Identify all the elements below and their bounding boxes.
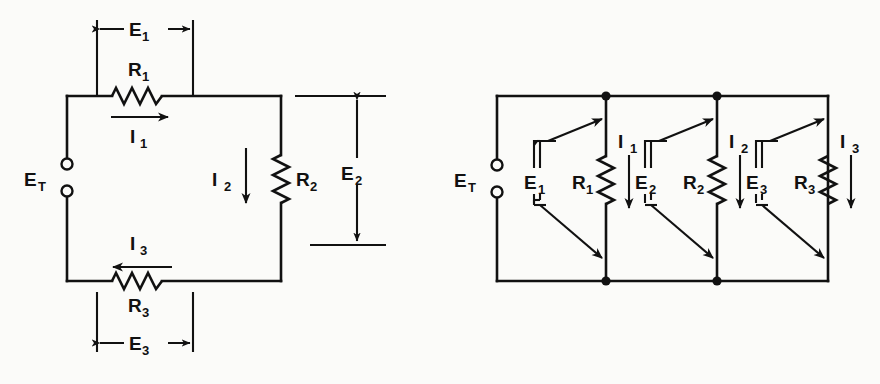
resistor-R3-subscript: 3 [808, 182, 815, 197]
dimension-E1: E 1 [97, 17, 193, 96]
current-I1-label: I [618, 131, 623, 152]
current-I2-label: I [212, 169, 217, 190]
diagram-canvas: E 1 R 1 I 1 E T [0, 0, 880, 384]
node-dot-bottom [601, 276, 610, 285]
current-I1-subscript: 1 [630, 141, 637, 156]
source-ET-label: E [24, 169, 37, 190]
terminal-top [62, 159, 73, 170]
series-right-branch: R 2 [273, 96, 317, 281]
circuit-diagram-figure: E 1 R 1 I 1 E T [0, 0, 880, 384]
series-circuit: E 1 R 1 I 1 E T [24, 17, 386, 358]
current-I3-label: I [840, 131, 845, 152]
current-I2: I 2 [212, 148, 246, 203]
resistor-R1-label: R [128, 59, 142, 80]
current-I1-subscript: 1 [140, 136, 147, 151]
parallel-branch-2: E 2 R 2 I 2 [633, 91, 748, 285]
resistor-R1-subscript: 1 [586, 182, 593, 197]
parallel-branch-3: E 3 R 3 I 3 [744, 119, 859, 258]
resistor-R3-subscript: 3 [142, 305, 149, 320]
current-I3-subscript: 3 [140, 243, 147, 258]
voltage-E1-subscript: 1 [538, 182, 545, 197]
voltage-E3-subscript: 3 [760, 182, 767, 197]
current-I1: I 1 [111, 117, 168, 151]
resistor-R1-label: R [572, 172, 586, 193]
current-I2-label: I [729, 131, 734, 152]
current-I1-label: I [130, 126, 135, 147]
resistor-R2-label: R [296, 169, 310, 190]
voltage-E1-label: E [524, 172, 537, 193]
series-source-ET: E T [24, 96, 73, 281]
dimension-E3-subscript: 3 [142, 343, 149, 358]
terminal-bottom [492, 187, 503, 198]
node-dot-top [712, 91, 721, 100]
parallel-source-ET: E T [454, 96, 503, 281]
series-top-branch [67, 88, 281, 104]
current-I3-subscript: 3 [852, 141, 859, 156]
current-I3-label: I [130, 233, 135, 254]
dimension-E2-subscript: 2 [355, 173, 362, 188]
dimension-E3: E 3 [97, 292, 193, 358]
dimension-E2-label: E [341, 163, 354, 184]
current-I2-subscript: 2 [741, 141, 748, 156]
current-I3: I 3 [113, 233, 172, 267]
resistor-R1-label-group: R 1 [128, 59, 149, 84]
source-ET-label: E [454, 170, 467, 191]
resistor-R1-subscript: 1 [142, 69, 149, 84]
source-ET-subscript: T [468, 180, 476, 195]
node-dot-bottom [712, 276, 721, 285]
series-bottom-branch: R 3 [67, 273, 281, 320]
voltage-E2-label: E [635, 172, 648, 193]
terminal-bottom [62, 186, 73, 197]
resistor-R3-label: R [794, 172, 808, 193]
parallel-branch-1: E 1 R 1 I 1 [522, 91, 637, 285]
dimension-E1-subscript: 1 [142, 29, 149, 44]
parallel-circuit: E T [454, 91, 859, 285]
voltage-E2-subscript: 2 [649, 182, 656, 197]
source-ET-subscript: T [38, 179, 46, 194]
resistor-R3-label: R [128, 295, 142, 316]
resistor-R2-subscript: 2 [310, 179, 317, 194]
resistor-R2-label: R [683, 172, 697, 193]
current-I3: I 3 [840, 131, 859, 208]
resistor-R2-subscript: 2 [697, 182, 704, 197]
voltage-E3-label: E [746, 172, 759, 193]
node-dot-top [601, 91, 610, 100]
current-I2-subscript: 2 [224, 179, 231, 194]
terminal-top [492, 160, 503, 171]
dimension-E1-label: E [129, 19, 142, 40]
dimension-E3-label: E [129, 333, 142, 354]
